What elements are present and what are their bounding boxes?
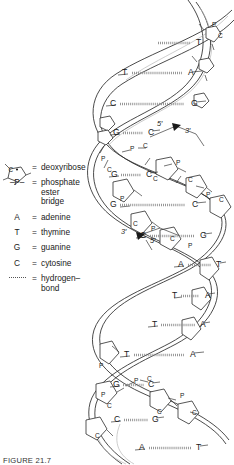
base-letter-right: T (216, 260, 221, 269)
base-letter-right: G (152, 415, 159, 424)
base-letter-right: A (188, 68, 194, 77)
svg-text:C: C (9, 166, 14, 173)
legend-item-guanine: G = guanine (2, 243, 94, 252)
legend-equals: = (32, 178, 41, 187)
backbone-atom-p: P (130, 146, 134, 153)
base-letter-right: T (196, 443, 201, 452)
base-letter-left: T (122, 68, 127, 77)
base-letter-left: C (114, 415, 120, 424)
legend-equals: = (32, 274, 41, 283)
base-letter-right: T (196, 38, 201, 47)
legend-equals: = (32, 259, 41, 268)
cytosine-symbol: C (2, 259, 32, 268)
backbone-atom-c: C (107, 403, 112, 410)
base-letter-left: T (124, 350, 129, 359)
backbone-atom-c: C (192, 410, 197, 417)
backbone-atom-c: C (107, 167, 112, 174)
base-letter-right: C (146, 170, 152, 179)
backbone-atom-c: C (153, 176, 158, 183)
base-letter-left: G (113, 380, 120, 389)
backbone-atom-c: C (188, 177, 193, 184)
backbone-atom-p: P (212, 22, 216, 29)
backbone-atom-p: P (101, 392, 105, 399)
figure-caption: FIGURE 21.7 (3, 456, 51, 465)
five-prime-lower-label: 5′ (150, 237, 156, 244)
three-prime-upper-label: 3′ (185, 127, 191, 134)
legend-label-thymine: thymine (41, 228, 94, 237)
legend-label-deoxyribose: deoxyribose (41, 163, 94, 172)
dna-double-helix-figure: .rib{fill:none;stroke:#2b2b2b;stroke-wid… (0, 0, 234, 465)
backbone-atom-p: P (188, 243, 192, 250)
backbone-atom-p: P (180, 393, 184, 400)
backbone-atom-p: P (120, 196, 124, 203)
base-letter-left: C (110, 99, 116, 108)
backbone-atom-p: P (151, 226, 155, 233)
legend-label-phosphate-line2: bridge (41, 197, 94, 206)
thymine-symbol: T (2, 228, 32, 237)
base-letter-left: G (113, 128, 120, 137)
base-letter-right: A (205, 291, 211, 300)
backbone-atom-c: C (133, 221, 138, 228)
backbone-atom-c: C (147, 376, 152, 383)
five-prime-upper-label: 5′ (157, 120, 163, 127)
base-letter-left: A (178, 260, 184, 269)
base-letter-right: A (200, 320, 206, 329)
backbone-atom-c: C (218, 33, 223, 40)
legend-item-hydrogen-bond: = hydrogen– bond (2, 274, 94, 293)
backbone-atom-p: P (134, 378, 138, 385)
legend-item-adenine: A = adenine (2, 213, 94, 222)
backbone-atom-c: C (143, 143, 148, 150)
legend-label-hydrogen-bond: hydrogen– bond (41, 274, 94, 293)
legend-label-adenine: adenine (41, 213, 94, 222)
legend-label-cytosine: cytosine (41, 259, 94, 268)
phosphate-bridge-icon: –P– (2, 178, 32, 187)
legend-item-phosphate: –P– = phosphate ester bridge (2, 178, 94, 206)
base-letter-left: T (172, 291, 177, 300)
backbone-atom-c: C (157, 409, 162, 416)
base-letter-right: G (200, 231, 207, 240)
legend-label-phosphate-line1: phosphate ester (41, 177, 80, 196)
base-letter-left: G (111, 170, 118, 179)
legend-equals: = (32, 228, 41, 237)
base-letter-left: A (139, 443, 145, 452)
adenine-symbol: A (2, 213, 32, 222)
legend-item-thymine: T = thymine (2, 228, 94, 237)
backbone-atom-p: P (176, 160, 180, 167)
legend-equals: = (32, 163, 41, 172)
backbone-atom-p: P (101, 156, 105, 163)
backbone-atom-c: C (95, 433, 100, 440)
base-letter-left: G (110, 200, 117, 209)
base-letter-left: C (140, 231, 146, 240)
backbone-atom-p: P (99, 363, 103, 370)
hydrogen-bond-icon (2, 274, 32, 283)
legend-label-hbond-line2: bond (41, 284, 94, 293)
three-prime-lower-label: 3′ (121, 228, 127, 235)
backbone-atom-c: C (219, 197, 224, 204)
guanine-symbol: G (2, 243, 32, 252)
legend-item-deoxyribose: C = deoxyribose (2, 163, 94, 172)
legend-label-phosphate: phosphate ester bridge (41, 178, 94, 206)
base-letter-left: T (152, 320, 157, 329)
legend-item-cytosine: C = cytosine (2, 259, 94, 268)
base-letter-right: C (192, 200, 198, 209)
legend-equals: = (32, 243, 41, 252)
backbone-atom-c: C (170, 236, 175, 243)
base-letter-right: C (148, 128, 154, 137)
base-letter-right: A (190, 350, 196, 359)
legend-equals: = (32, 213, 41, 222)
legend-label-guanine: guanine (41, 243, 94, 252)
legend: C = deoxyribose –P– = phosphate ester br… (2, 163, 94, 299)
legend-label-hbond-line1: hydrogen– (41, 273, 80, 283)
backbone-atom-p: P (206, 192, 210, 199)
base-letter-right: G (191, 99, 198, 108)
